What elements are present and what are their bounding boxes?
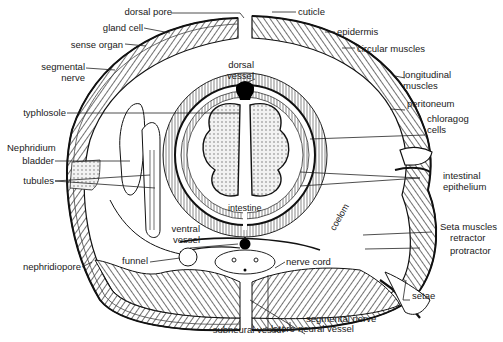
label-tubules: tubules	[10, 176, 54, 187]
label-nephridium: Nephridium	[7, 143, 56, 154]
label-seta-muscles: Seta muscles	[440, 222, 497, 233]
dorsal-vessel-dot	[236, 81, 254, 99]
label-bladder: bladder	[10, 156, 54, 167]
label-chloragog-cells: chloragog cells	[427, 114, 469, 135]
label-segmental-nerve-right: segmental nerve	[306, 314, 376, 325]
label-cuticle: cuticle	[298, 7, 325, 18]
ventral-vessel	[240, 239, 251, 250]
label-nephridiopore: nephridiopore	[10, 262, 81, 273]
label-ventral-vessel: ventral vessel	[160, 224, 200, 245]
label-typhlosole: typhlosole	[10, 108, 66, 119]
label-epidermis: epidermis	[337, 27, 378, 38]
label-intestine: intestine	[228, 203, 262, 214]
label-funnel: funnel	[110, 256, 148, 267]
label-subneural-vessel: subneural vessel	[140, 325, 284, 336]
label-setae: setae	[412, 291, 435, 302]
label-longitudinal-muscles: longitudinal muscles	[403, 70, 451, 91]
label-segmental-nerve-left: segmental nerve	[30, 62, 85, 83]
label-dorsal-vessel: dorsal vessel	[210, 60, 254, 81]
funnel-shape	[179, 248, 197, 266]
label-protractor: protractor	[450, 246, 491, 257]
label-nerve-cord: nerve cord	[286, 257, 331, 268]
label-gland-cell: gland cell	[95, 23, 143, 34]
label-dorsal-pore: dorsal pore	[120, 7, 172, 18]
label-peritoneum: peritoneum	[407, 99, 455, 110]
label-intestinal-epithelium: intestinal epithelium	[443, 171, 486, 192]
label-retractor: retractor	[450, 233, 485, 244]
label-latero-neural-vessel: latero-neural vessel	[271, 324, 354, 335]
label-circular-muscles: circular muscles	[357, 44, 425, 55]
label-sense-organ: sense organ	[65, 40, 123, 51]
